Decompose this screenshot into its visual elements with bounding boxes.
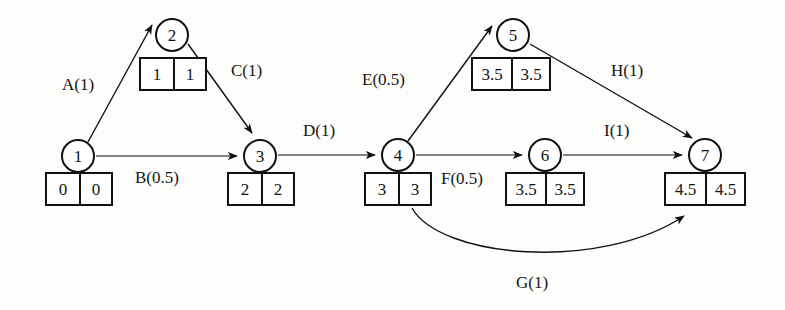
edge-label-A: A(1) bbox=[62, 76, 94, 93]
timebox-node-2: 1 1 bbox=[139, 57, 207, 91]
latest-time-node-7: 4.5 bbox=[705, 174, 744, 204]
earliest-time-node-5: 3.5 bbox=[473, 59, 511, 89]
node-5[interactable]: 5 bbox=[496, 18, 530, 52]
latest-time-node-1: 0 bbox=[79, 174, 111, 204]
earliest-time-node-7: 4.5 bbox=[666, 174, 705, 204]
timebox-node-6: 3.5 3.5 bbox=[505, 172, 585, 206]
activity-network-diagram: 1 2 3 4 5 6 7 0 0 1 1 2 2 3 3 3.5 3.5 3.… bbox=[0, 0, 785, 310]
node-1[interactable]: 1 bbox=[61, 139, 95, 173]
edge-label-B: B(0.5) bbox=[135, 169, 179, 186]
edge-label-C: C(1) bbox=[231, 62, 262, 79]
latest-time-node-3: 2 bbox=[261, 174, 293, 204]
earliest-time-node-2: 1 bbox=[141, 59, 173, 89]
edge-G-curve bbox=[412, 208, 684, 252]
node-5-label: 5 bbox=[509, 27, 518, 44]
earliest-time-node-6: 3.5 bbox=[507, 174, 545, 204]
timebox-node-5: 3.5 3.5 bbox=[471, 57, 551, 91]
earliest-time-node-1: 0 bbox=[47, 174, 79, 204]
earliest-time-node-4: 3 bbox=[366, 174, 398, 204]
timebox-node-7: 4.5 4.5 bbox=[664, 172, 746, 206]
node-3[interactable]: 3 bbox=[243, 139, 277, 173]
node-7[interactable]: 7 bbox=[688, 138, 722, 172]
node-6[interactable]: 6 bbox=[528, 138, 562, 172]
node-1-label: 1 bbox=[74, 148, 83, 165]
node-7-label: 7 bbox=[701, 147, 710, 164]
edge-label-F: F(0.5) bbox=[441, 170, 483, 187]
earliest-time-node-3: 2 bbox=[229, 174, 261, 204]
timebox-node-3: 2 2 bbox=[227, 172, 295, 206]
timebox-node-1: 0 0 bbox=[45, 172, 113, 206]
edge-label-H: H(1) bbox=[611, 62, 643, 79]
node-4-label: 4 bbox=[394, 147, 403, 164]
edge-label-G: G(1) bbox=[516, 274, 548, 291]
latest-time-node-2: 1 bbox=[173, 59, 205, 89]
node-2-label: 2 bbox=[168, 27, 177, 44]
latest-time-node-5: 3.5 bbox=[511, 59, 549, 89]
node-4[interactable]: 4 bbox=[381, 138, 415, 172]
latest-time-node-6: 3.5 bbox=[545, 174, 583, 204]
edge-label-D: D(1) bbox=[303, 122, 335, 139]
edge-label-E: E(0.5) bbox=[362, 71, 405, 88]
edge-label-I: I(1) bbox=[604, 122, 629, 139]
latest-time-node-4: 3 bbox=[398, 174, 430, 204]
node-6-label: 6 bbox=[541, 147, 550, 164]
node-3-label: 3 bbox=[256, 148, 265, 165]
node-2[interactable]: 2 bbox=[155, 18, 189, 52]
timebox-node-4: 3 3 bbox=[364, 172, 432, 206]
